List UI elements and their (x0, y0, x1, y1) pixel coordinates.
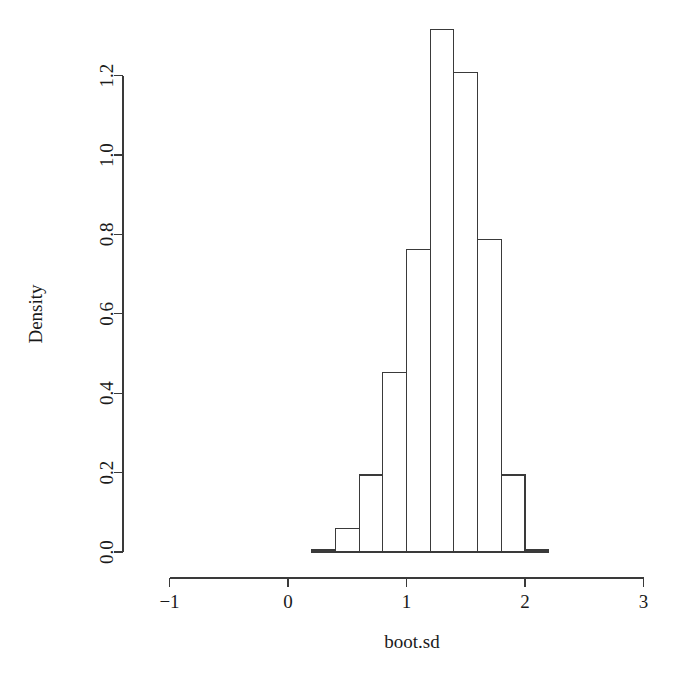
y-axis-tick-label: 1.2 (96, 64, 117, 88)
histogram-bar (478, 240, 502, 552)
histogram-bar (312, 550, 336, 552)
y-axis-tick-label: 0.0 (96, 540, 117, 564)
histogram-bar (501, 475, 525, 552)
x-axis-tick-label: 0 (283, 591, 293, 612)
y-axis-tick-label: 0.6 (96, 302, 117, 326)
y-axis-title: Density (25, 284, 46, 344)
y-axis: 0.00.20.40.60.81.01.2 (96, 64, 123, 564)
histogram-bar (454, 72, 478, 552)
histogram-plot: 0.00.20.40.60.81.01.2 −10123 boot.sd Den… (0, 0, 680, 678)
histogram-bars (312, 30, 549, 552)
plot-canvas: 0.00.20.40.60.81.01.2 −10123 boot.sd Den… (0, 0, 680, 678)
y-axis-tick-label: 0.2 (96, 461, 117, 485)
histogram-bar (430, 30, 454, 552)
histogram-bar (525, 550, 549, 552)
x-axis-tick-label: 1 (402, 591, 412, 612)
x-axis-tick-label: 2 (520, 591, 530, 612)
x-axis-tick-label: −1 (159, 591, 179, 612)
x-axis-title: boot.sd (384, 631, 440, 652)
y-axis-tick-label: 0.4 (96, 381, 117, 405)
histogram-bar (407, 249, 431, 552)
histogram-bar (335, 529, 359, 552)
histogram-bar (359, 475, 383, 552)
x-axis: −10123 (159, 578, 648, 612)
y-axis-tick-label: 0.8 (96, 223, 117, 247)
x-axis-tick-label: 3 (639, 591, 649, 612)
y-axis-tick-label: 1.0 (96, 143, 117, 167)
histogram-bar (383, 373, 407, 552)
